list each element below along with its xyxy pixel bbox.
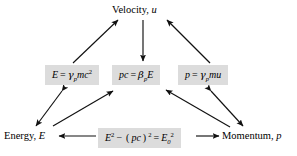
inv-minus: − <box>114 132 124 143</box>
node-velocity-symbol: u <box>152 4 157 15</box>
edge-emc2-energy <box>36 91 62 126</box>
node-pc-beta-e: pc=βpE <box>112 65 160 85</box>
edge-pgammamu-momentum <box>211 91 243 126</box>
node-momentum: Momentum, p <box>222 130 282 142</box>
node-energy-gamma-mc2: E=γpmc2 <box>45 65 99 85</box>
node-energy-symbol: E <box>39 130 45 141</box>
edge-pgammamu-to-velocity <box>167 20 210 63</box>
node-energy: Energy, E <box>4 130 45 142</box>
edge-energy-to-pcbetae <box>53 91 113 126</box>
inv-equals: = <box>151 132 161 143</box>
inv-pc: pc <box>131 132 140 143</box>
node-momentum-symbol: p <box>276 130 281 141</box>
emc2-equals: = <box>58 69 68 80</box>
relativity-relations-diagram: Velocity, u E=γpmc2 pc=βpE p=γpmu Energy… <box>0 0 297 156</box>
emc2-rest: mc <box>77 69 89 80</box>
node-velocity: Velocity, u <box>112 4 157 16</box>
emc2-exponent: 2 <box>89 68 92 75</box>
node-energy-word: Energy, <box>4 130 36 141</box>
node-p-gamma-mu: p=γpmu <box>178 65 228 85</box>
inv-e0-exponent: 2 <box>171 131 174 138</box>
pcbe-rest: E <box>147 69 153 80</box>
node-velocity-word: Velocity, <box>112 4 149 15</box>
inv-e0-subscript: 0 <box>167 138 170 145</box>
pgmu-rest: mu <box>209 69 221 80</box>
edge-emc2-to-velocity <box>73 20 118 63</box>
pcbe-equals: = <box>128 69 138 80</box>
node-invariant-mass-relation: E2−(pc)2=E02 <box>98 128 181 148</box>
node-momentum-word: Momentum, <box>222 130 274 141</box>
edge-momentum-to-pcbetae <box>166 90 230 127</box>
pgmu-equals: = <box>190 69 200 80</box>
